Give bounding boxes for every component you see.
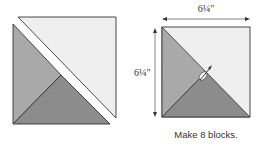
left-figure [13,17,116,124]
right-figure: 6¼" 6¼" Make 8 blocks. [134,3,250,140]
width-label: 6¼" [198,3,215,14]
quilt-diagram: 6¼" 6¼" Make 8 blocks. [0,0,265,150]
height-dimension-arrow [153,28,157,117]
caption: Make 8 blocks. [174,129,237,140]
width-dimension-arrow [162,17,250,21]
height-label: 6¼" [134,67,151,78]
